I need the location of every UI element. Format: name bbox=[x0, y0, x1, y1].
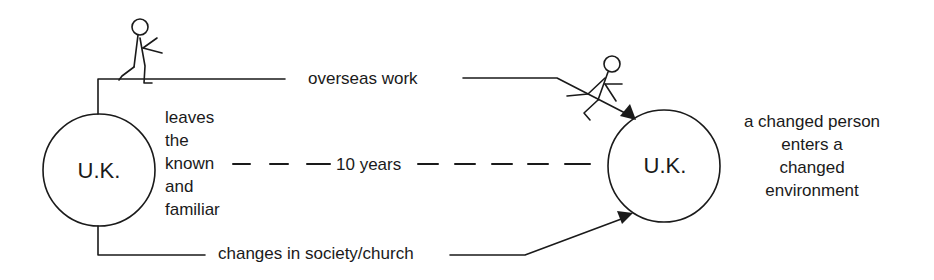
uk-start-label: U.K. bbox=[78, 160, 121, 182]
annotation-line: a changed person bbox=[722, 110, 902, 133]
society-change-line-right bbox=[450, 218, 624, 255]
changed-person-annotation: a changed person enters a changed enviro… bbox=[722, 110, 902, 202]
society-change-line-left bbox=[98, 226, 205, 255]
uk-end-label: U.K. bbox=[644, 155, 687, 177]
leaves-known-familiar-annotation: leaves the known and familiar bbox=[165, 106, 220, 221]
overseas-work-label: overseas work bbox=[308, 70, 418, 87]
society-church-changes-label: changes in society/church bbox=[218, 245, 414, 262]
annotation-line: leaves bbox=[165, 106, 220, 129]
annotation-line: the bbox=[165, 129, 220, 152]
ten-years-label: 10 years bbox=[336, 156, 401, 173]
annotation-line: known bbox=[165, 152, 220, 175]
arrowhead-bottom-icon bbox=[617, 211, 633, 224]
annotation-line: and bbox=[165, 175, 220, 198]
overseas-work-line-right bbox=[463, 78, 627, 114]
annotation-line: environment bbox=[722, 179, 902, 202]
annotation-line: enters a bbox=[722, 133, 902, 156]
annotation-line: familiar bbox=[165, 198, 220, 221]
stick-figure-departing bbox=[119, 19, 162, 83]
annotation-line: changed bbox=[722, 156, 902, 179]
